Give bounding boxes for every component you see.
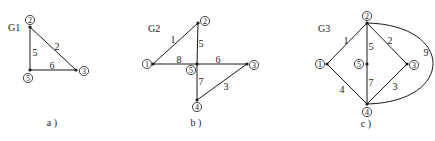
node-label: 5 <box>189 66 193 75</box>
node-label: 1 <box>318 60 322 69</box>
edge-label: 3 <box>393 81 398 92</box>
edge-label: 8 <box>177 54 182 65</box>
edge-label: 5 <box>199 38 204 49</box>
node-label: 2 <box>365 12 369 21</box>
node-label: 4 <box>365 108 369 117</box>
edge-4 <box>327 64 367 104</box>
graph-title: G2 <box>148 23 160 34</box>
edge-label: 2 <box>55 41 60 52</box>
edge-9 <box>367 23 433 104</box>
edge-label: 2 <box>388 35 393 46</box>
graph-caption: b ) <box>191 117 202 129</box>
node-dot <box>365 62 368 65</box>
graph-caption: c ) <box>361 118 371 130</box>
graph-title: G3 <box>318 23 330 34</box>
node-dot <box>28 68 31 71</box>
node-dot <box>365 21 368 24</box>
graph-g3: 125743921534G3c ) <box>315 11 433 130</box>
edge-label: 9 <box>424 47 429 58</box>
graph-caption: a ) <box>47 117 57 129</box>
edge-3 <box>197 64 247 100</box>
node-dot <box>365 102 368 105</box>
graph-g1: 526253G1a ) <box>8 15 89 129</box>
node-label: 2 <box>28 16 32 25</box>
graph-title: G1 <box>8 22 20 33</box>
edge-label: 4 <box>340 84 345 95</box>
node-label: 3 <box>82 67 86 76</box>
node-label: 5 <box>26 74 30 83</box>
edge-label: 7 <box>369 77 374 88</box>
edge-label: 7 <box>199 76 204 87</box>
edge-label: 5 <box>369 41 374 52</box>
edge-label: 1 <box>344 35 349 46</box>
node-dot <box>28 25 31 28</box>
edge-label: 3 <box>224 81 229 92</box>
node-label: 1 <box>145 60 149 69</box>
node-dot <box>196 21 199 24</box>
node-label: 5 <box>357 60 361 69</box>
node-label: 3 <box>412 61 416 70</box>
node-dot <box>325 62 328 65</box>
node-label: 3 <box>252 61 256 70</box>
node-label: 4 <box>195 103 199 112</box>
node-dot <box>245 62 248 65</box>
edge-label: 6 <box>50 60 55 71</box>
graph-g2: 15867321534G2b ) <box>142 16 258 129</box>
graph-figure: 526253G1a ) 15867321534G2b ) 12574392153… <box>0 0 435 141</box>
edge-label: 6 <box>216 54 221 65</box>
node-dot <box>195 98 198 101</box>
edge-label: 5 <box>33 47 38 58</box>
node-dot <box>405 62 408 65</box>
node-label: 2 <box>203 17 207 26</box>
node-dot <box>195 62 198 65</box>
edge-label: 1 <box>171 34 176 45</box>
node-dot <box>74 68 77 71</box>
